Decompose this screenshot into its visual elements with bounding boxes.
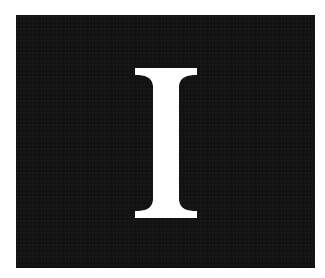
letter-i-icon [135, 68, 198, 218]
canvas: I [0, 0, 325, 278]
letter-i-glyph: I [135, 68, 198, 218]
